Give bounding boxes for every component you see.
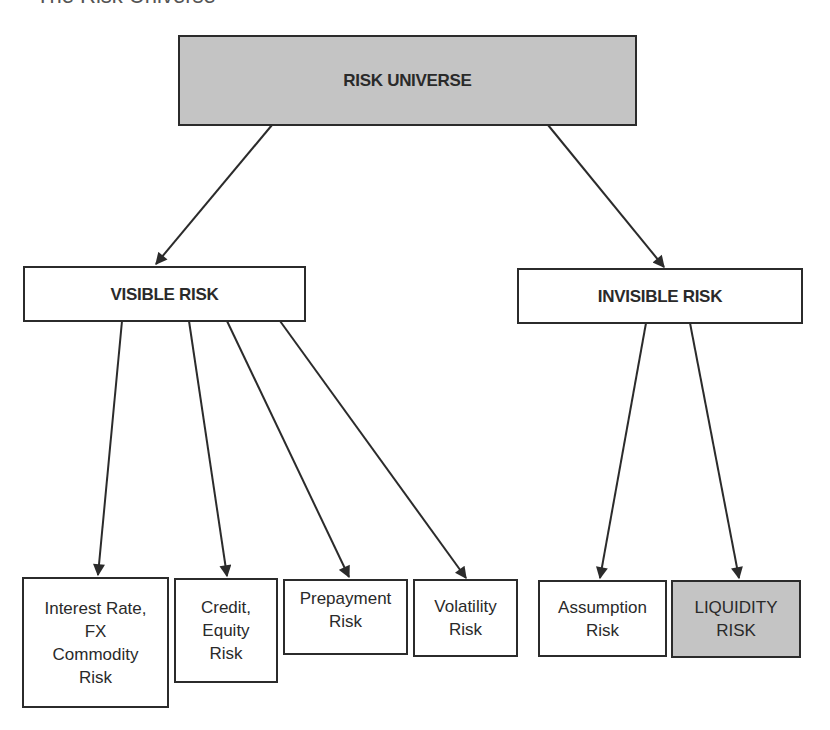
visible-risk-label: VISIBLE RISK <box>111 283 219 306</box>
arrow-invisible-to-liquidity <box>690 323 739 578</box>
invisible-risk-box: INVISIBLE RISK <box>517 268 803 324</box>
label-line: Risk <box>558 619 647 642</box>
arrow-root-to-invisible <box>548 125 664 267</box>
label-line: LIQUIDITY <box>694 596 777 619</box>
label-line: FX <box>44 620 146 643</box>
label-line: Prepayment <box>300 587 392 610</box>
invisible-risk-label: INVISIBLE RISK <box>598 285 722 308</box>
volatility-risk-box: Volatility Risk <box>413 579 518 657</box>
interest-rate-fx-commodity-risk-label: Interest Rate, FX Commodity Risk <box>44 597 146 689</box>
visible-risk-box: VISIBLE RISK <box>23 266 306 322</box>
risk-universe-box: RISK UNIVERSE <box>178 35 637 126</box>
label-line: Assumption <box>558 596 647 619</box>
credit-equity-risk-label: Credit, Equity Risk <box>201 596 251 665</box>
prepayment-risk-box: Prepayment Risk <box>283 579 408 655</box>
prepayment-risk-label: Prepayment Risk <box>300 587 392 633</box>
label-line: RISK <box>694 619 777 642</box>
label-line: Risk <box>201 642 251 665</box>
label-line: Equity <box>201 619 251 642</box>
arrow-visible-to-prepayment <box>227 321 349 577</box>
liquidity-risk-box: LIQUIDITY RISK <box>671 580 801 658</box>
label-line: Commodity <box>44 643 146 666</box>
assumption-risk-label: Assumption Risk <box>558 596 647 642</box>
credit-equity-risk-box: Credit, Equity Risk <box>174 578 278 683</box>
arrow-invisible-to-assumption <box>600 323 646 578</box>
assumption-risk-box: Assumption Risk <box>538 580 667 657</box>
interest-rate-fx-commodity-risk-box: Interest Rate, FX Commodity Risk <box>22 577 169 708</box>
arrow-visible-to-volatility <box>280 321 466 578</box>
label-line: Risk <box>44 666 146 689</box>
arrow-root-to-visible <box>156 125 272 264</box>
label-line: Credit, <box>201 596 251 619</box>
label-line: Interest Rate, <box>44 597 146 620</box>
label-line: Volatility <box>434 595 496 618</box>
arrow-visible-to-interest <box>98 321 122 575</box>
liquidity-risk-label: LIQUIDITY RISK <box>694 596 777 642</box>
volatility-risk-label: Volatility Risk <box>434 595 496 641</box>
label-line: Risk <box>434 618 496 641</box>
arrow-visible-to-credit <box>189 321 227 576</box>
label-line: Risk <box>300 610 392 633</box>
risk-universe-label: RISK UNIVERSE <box>343 69 471 92</box>
